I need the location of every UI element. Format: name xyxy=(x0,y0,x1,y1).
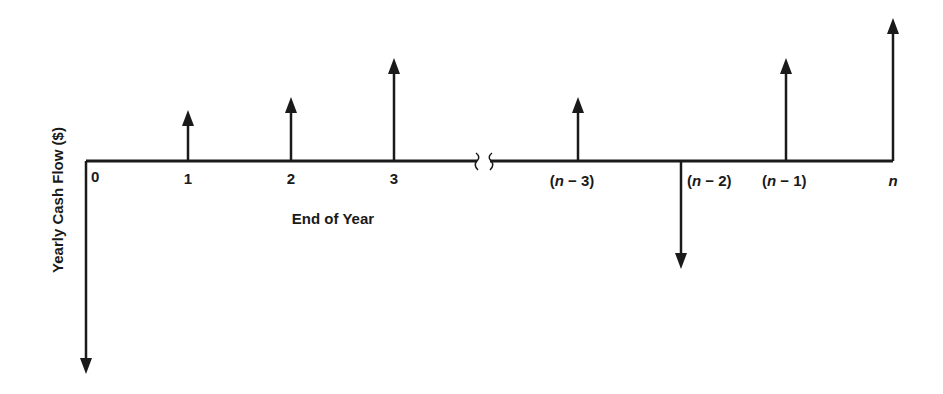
tick-label-n-minus-1: (n − 1) xyxy=(762,172,807,189)
tick-label-n-minus-3: (n − 3) xyxy=(550,172,595,189)
cash-flow-arrow-n3-up xyxy=(572,97,584,161)
cash-flow-arrow-n2-down xyxy=(675,161,687,269)
tick-label-2: 2 xyxy=(287,170,295,187)
cash-flow-arrow-2-up xyxy=(285,97,297,161)
cash-flow-arrow-0-down xyxy=(80,161,92,374)
cash-flow-diagram xyxy=(0,0,943,394)
cash-flow-arrow-3-up xyxy=(388,58,400,161)
cash-flow-arrow-1-up xyxy=(182,110,194,161)
cash-flow-arrow-n1-up xyxy=(780,58,792,161)
x-axis-label: End of Year xyxy=(292,210,374,227)
tick-label-n: n xyxy=(888,172,897,189)
y-axis-label: Yearly Cash Flow ($) xyxy=(49,127,66,273)
tick-label-1: 1 xyxy=(184,170,192,187)
tick-label-0: 0 xyxy=(91,168,99,185)
tick-label-3: 3 xyxy=(390,170,398,187)
cash-flow-arrow-n-up xyxy=(887,18,899,161)
tick-label-n-minus-2: (n − 2) xyxy=(687,172,732,189)
